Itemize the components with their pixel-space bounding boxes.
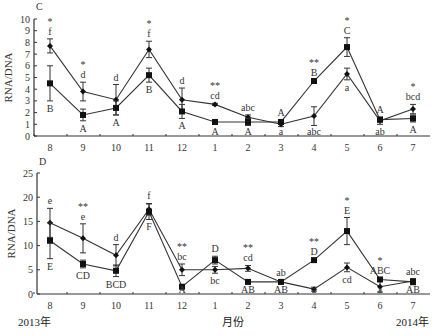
x-tick-label: 9	[81, 300, 86, 311]
significance-letter-upper: bcd	[406, 91, 420, 102]
significance-letter-upper: d	[114, 232, 119, 243]
y-tick-label: 2	[25, 107, 30, 118]
significance-stars: *	[345, 15, 350, 26]
data-point	[278, 119, 284, 125]
significance-stars: *	[48, 16, 53, 27]
significance-letter-upper: d	[114, 72, 119, 83]
significance-letter-upper: cd	[210, 90, 219, 101]
figure: C012345678910RNA/DNA891011121234567f*Bd*…	[0, 0, 438, 336]
x-tick-label: 11	[144, 142, 154, 153]
x-tick-label: 7	[411, 142, 416, 153]
significance-letter-lower: A	[178, 284, 186, 295]
y-tick-label: 0	[25, 131, 30, 142]
y-tick-label: 6	[25, 60, 30, 71]
x-tick-label: 3	[279, 142, 284, 153]
significance-letter-upper: f	[147, 28, 151, 39]
y-tick-label: 15	[23, 216, 33, 227]
significance-stars: *	[81, 59, 86, 70]
data-point	[146, 209, 152, 215]
x-tick-label: 9	[81, 142, 86, 153]
significance-letter-upper: e	[48, 195, 53, 206]
significance-letter-upper: A	[376, 104, 384, 115]
footer-xlabel: 月份	[222, 313, 244, 329]
data-point	[344, 228, 350, 234]
significance-letter-lower: B	[47, 103, 54, 114]
data-point	[146, 72, 152, 78]
panel-label: D	[39, 156, 46, 167]
significance-letter-upper: cd	[243, 252, 252, 263]
data-point	[212, 267, 218, 273]
significance-stars: **	[309, 236, 319, 247]
data-point	[377, 117, 383, 123]
significance-letter-lower: a	[312, 284, 317, 295]
significance-letter-lower: abc	[307, 126, 321, 137]
x-tick-label: 5	[345, 300, 350, 311]
significance-letter-lower: AB	[274, 284, 288, 295]
x-tick-label: 1	[213, 142, 218, 153]
x-tick-label: 11	[144, 300, 154, 311]
data-point	[47, 238, 53, 244]
data-point	[212, 101, 218, 107]
data-point	[47, 80, 53, 86]
y-tick-label: 7	[25, 49, 30, 60]
data-point	[344, 264, 350, 270]
significance-stars: *	[411, 81, 416, 92]
significance-letter-lower: cd	[342, 274, 351, 285]
chart-panel-c: C012345678910RNA/DNA891011121234567f*Bd*…	[2, 1, 430, 153]
significance-letter-upper: ab	[276, 267, 285, 278]
significance-stars: *	[378, 255, 383, 266]
y-tick-label: 8	[25, 37, 30, 48]
y-tick-label: 3	[25, 95, 30, 106]
significance-letter-lower: a	[378, 284, 383, 295]
significance-letter-lower: A	[112, 117, 120, 128]
significance-stars: **	[78, 201, 88, 212]
data-point	[245, 119, 251, 125]
data-point	[212, 257, 218, 263]
data-point	[311, 78, 317, 84]
data-point	[212, 119, 218, 125]
x-tick-label: 10	[111, 300, 121, 311]
significance-letter-lower: ab	[375, 126, 384, 137]
significance-letter-upper: e	[81, 211, 86, 222]
significance-letter-upper: D	[211, 243, 218, 254]
x-tick-label: 6	[378, 300, 383, 311]
y-tick-label: 20	[23, 192, 33, 203]
y-tick-label: 5	[28, 264, 33, 275]
significance-stars: *	[345, 195, 350, 206]
significance-stars: **	[177, 241, 187, 252]
significance-letter-lower: CD	[76, 270, 90, 281]
data-point	[80, 261, 86, 267]
x-tick-label: 8	[48, 300, 53, 311]
data-point	[80, 112, 86, 118]
x-tick-label: 8	[48, 142, 53, 153]
y-axis-label: RNA/DNA	[5, 208, 17, 258]
data-point	[113, 105, 119, 111]
y-tick-label: 25	[23, 168, 33, 179]
data-point	[410, 106, 416, 112]
significance-letter-upper: D	[310, 246, 317, 257]
x-tick-label: 4	[312, 300, 317, 311]
significance-letter-lower: AB	[406, 284, 420, 295]
data-point	[179, 108, 185, 114]
significance-letter-lower: a	[345, 82, 350, 93]
x-tick-label: 12	[177, 300, 187, 311]
chart-panel-d: D0510152025RNA/DNA891011121234567eEe**CD…	[5, 156, 430, 311]
significance-letter-upper: bc	[177, 251, 187, 262]
x-tick-label: 1	[213, 300, 218, 311]
significance-letter-lower: E	[47, 261, 53, 272]
significance-letter-upper: abc	[406, 266, 420, 277]
x-tick-label: 3	[279, 300, 284, 311]
series-square	[47, 204, 416, 290]
series-diamond	[47, 203, 416, 292]
panel-label: C	[36, 1, 43, 12]
y-tick-label: 1	[25, 119, 30, 130]
series-diamond	[47, 39, 416, 127]
significance-letter-upper: d	[180, 75, 185, 86]
data-point	[311, 257, 317, 263]
x-tick-label: 10	[111, 142, 121, 153]
significance-letter-lower: A	[79, 123, 87, 134]
y-axis-label: RNA/DNA	[2, 52, 14, 102]
significance-letter-upper: f	[48, 26, 52, 37]
data-point	[245, 265, 251, 271]
significance-letter-lower: A	[211, 126, 219, 137]
